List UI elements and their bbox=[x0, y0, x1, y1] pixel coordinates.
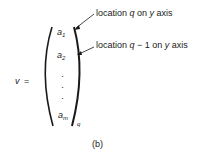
element-a1: a1 bbox=[57, 27, 65, 38]
dot: · bbox=[61, 71, 64, 82]
vertical-ellipsis: · · · bbox=[61, 71, 64, 104]
annotation-location-q-minus-1: location q − 1 on y axis bbox=[96, 40, 188, 50]
annotation-text: on bbox=[150, 40, 165, 50]
annotation-location-q: location q on y axis bbox=[96, 8, 173, 18]
element-am: am bbox=[58, 110, 68, 121]
figure-caption: (b) bbox=[92, 139, 103, 149]
annotation-text: location bbox=[96, 8, 130, 18]
element-subscript: 1 bbox=[62, 32, 65, 38]
annotation-text: axis bbox=[154, 8, 173, 18]
annotation-text: location bbox=[96, 40, 130, 50]
element-subscript: 2 bbox=[62, 55, 65, 61]
dot: · bbox=[61, 93, 64, 104]
diagram-lines bbox=[0, 0, 209, 161]
left-paren bbox=[45, 27, 53, 126]
subscript-q: q bbox=[77, 121, 80, 127]
annotation-text: on bbox=[135, 8, 150, 18]
annotation-mid: − 1 bbox=[135, 40, 150, 50]
annotation-text: axis bbox=[169, 40, 188, 50]
element-a2: a2 bbox=[57, 50, 65, 61]
equals-sign: = bbox=[24, 76, 29, 86]
vector-symbol: v = bbox=[15, 76, 29, 86]
vector-name: v bbox=[15, 76, 20, 86]
element-subscript: m bbox=[63, 115, 68, 121]
dot: · bbox=[61, 82, 64, 93]
right-paren bbox=[72, 27, 80, 126]
